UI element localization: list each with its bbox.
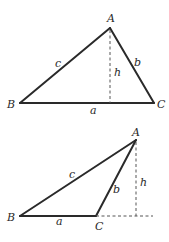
vertex-label-a: A [106, 12, 115, 25]
vertex-label-c: C [157, 98, 166, 111]
vertex-label-a: A [131, 126, 140, 139]
side-c [20, 28, 110, 103]
vertex-label-b: B [6, 98, 15, 111]
side-label-b: b [113, 183, 120, 196]
triangle-diagrams: A B C c b a h A B C c b a h [0, 0, 169, 242]
side-label-a: a [90, 104, 97, 117]
vertex-label-c: C [95, 220, 104, 233]
side-label-a: a [56, 215, 63, 228]
side-b [96, 140, 136, 216]
vertex-label-b: B [6, 211, 15, 224]
triangle-bottom: A B C c b a h [6, 126, 153, 233]
side-label-c: c [55, 57, 61, 70]
side-label-b: b [134, 56, 141, 69]
triangle-top: A B C c b a h [6, 12, 166, 117]
side-label-c: c [69, 168, 75, 181]
height-label-h: h [140, 176, 147, 189]
side-c [20, 140, 136, 216]
height-label-h: h [114, 66, 121, 79]
